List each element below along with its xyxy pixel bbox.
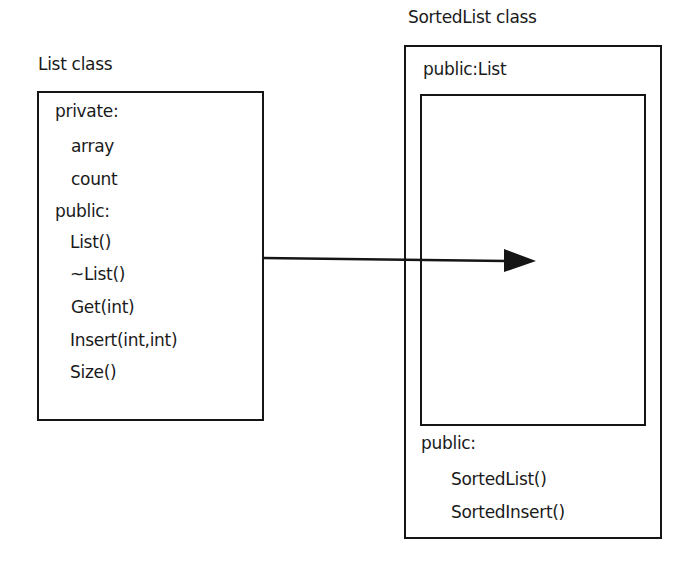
list-member-array: array [71, 136, 114, 156]
list-method-constructor: List() [70, 232, 111, 252]
list-method-destructor: ~List() [70, 264, 125, 284]
list-member-count: count [71, 169, 117, 189]
sortedlist-method-constructor: SortedList() [451, 469, 546, 489]
sortedlist-class-title: SortedList class [408, 7, 537, 27]
list-method-size: Size() [70, 362, 116, 382]
list-method-get: Get(int) [71, 297, 134, 317]
sortedlist-inherits-label: public:List [423, 59, 506, 79]
list-public-header: public: [55, 201, 110, 221]
list-method-insert: Insert(int,int) [70, 330, 177, 350]
list-class-title: List class [38, 54, 112, 74]
embedded-list-box [420, 94, 646, 426]
sortedlist-public-header: public: [421, 433, 476, 453]
list-private-header: private: [55, 101, 118, 121]
sortedlist-method-sortedinsert: SortedInsert() [451, 502, 565, 522]
